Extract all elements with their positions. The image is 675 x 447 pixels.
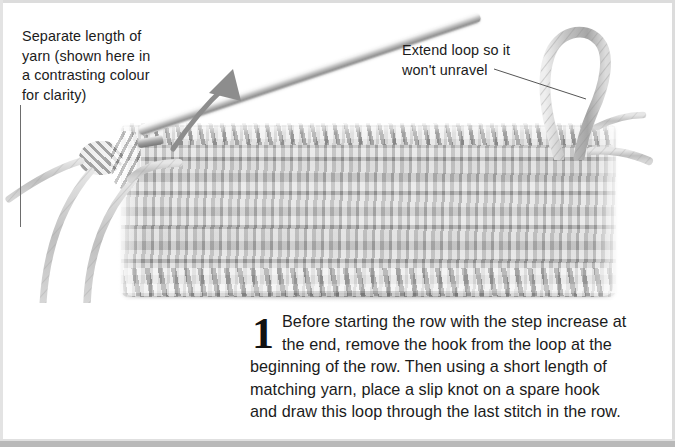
step-line-3: beginning of the row. Then using a short… (250, 355, 670, 378)
step-text: Before starting the row with the step in… (250, 310, 670, 423)
step-line-1: Before starting the row with the step in… (250, 310, 670, 333)
instruction-page: Separate length of yarn (shown here in a… (0, 0, 675, 447)
step-line-4: matching yarn, place a slip knot on a sp… (250, 378, 670, 401)
callout-extend-loop: Extend loop so it won't unravel (402, 41, 602, 80)
step-line-2: the end, remove the hook from the loop a… (250, 333, 670, 356)
leader-line-left (20, 105, 21, 227)
page-border-bottom (0, 441, 675, 447)
step-line-5: and draw this loop through the last stit… (250, 400, 670, 423)
callout-separate-length-of-yarn: Separate length of yarn (shown here in a… (22, 27, 212, 105)
step-block: 1 Before starting the row with the step … (250, 310, 670, 430)
